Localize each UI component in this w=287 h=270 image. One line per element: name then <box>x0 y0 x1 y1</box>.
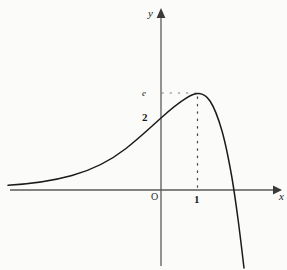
x-tick-label-1: 1 <box>194 194 200 205</box>
origin-label: O <box>151 192 158 202</box>
y-tick-label-2: 2 <box>142 112 148 123</box>
graph-figure: y x e 2 O 1 <box>0 0 287 270</box>
y-tick-label-e: e <box>142 89 146 98</box>
plot-canvas <box>0 0 287 270</box>
y-axis-arrow-icon <box>157 8 166 18</box>
x-axis-label: x <box>279 191 284 202</box>
y-axis-label: y <box>148 8 153 19</box>
function-curve <box>8 94 244 268</box>
